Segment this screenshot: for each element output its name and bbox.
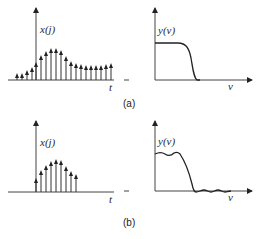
panel-a-freq-plot: y(v) v bbox=[124, 8, 252, 92]
stem-arrow-icon bbox=[39, 55, 43, 60]
stem-arrow-icon bbox=[79, 64, 83, 69]
stem-arrow-icon bbox=[54, 159, 58, 164]
stem-arrow-icon bbox=[49, 161, 53, 166]
panel-b-caption: (b) bbox=[123, 217, 135, 228]
stem-arrow-icon bbox=[59, 160, 63, 165]
stem-arrow-icon bbox=[64, 56, 68, 61]
stem-arrow-icon bbox=[30, 67, 34, 72]
panel-b-time-plot: x(j) t bbox=[8, 121, 114, 205]
panel-a-x-label: x(j) bbox=[39, 23, 56, 36]
stem-arrow-icon bbox=[99, 65, 103, 70]
stem-arrow-icon bbox=[15, 73, 19, 78]
stem-arrow-icon bbox=[49, 48, 53, 53]
stem-arrow-icon bbox=[64, 166, 68, 171]
panel-b-t-label: t bbox=[109, 193, 113, 205]
stem-arrow-icon bbox=[20, 73, 24, 78]
panel-a-t-label: t bbox=[109, 81, 113, 93]
stem-arrow-icon bbox=[34, 62, 38, 67]
panel-b-response-curve bbox=[155, 152, 231, 192]
stem-arrow-icon bbox=[84, 65, 88, 70]
stem-arrow-icon bbox=[104, 64, 108, 69]
panel-a-response-curve bbox=[155, 43, 200, 80]
stem-arrow-icon bbox=[34, 178, 38, 183]
stem-arrow-icon bbox=[109, 63, 113, 68]
stem-arrow-icon bbox=[25, 70, 29, 75]
figure-canvas: x(j) t y(v) v (a) x(j) t y(v) v (b) bbox=[0, 0, 262, 239]
stem-arrow-icon bbox=[74, 63, 78, 68]
panel-b-y-label: y(v) bbox=[157, 135, 175, 148]
panel-b-freq-plot: y(v) v bbox=[124, 121, 252, 203]
panel-b-v-label: v bbox=[228, 191, 233, 203]
stem-arrow-icon bbox=[44, 165, 48, 170]
stem-arrow-icon bbox=[94, 65, 98, 70]
panel-b-x-label: x(j) bbox=[39, 136, 56, 149]
stem-arrow-icon bbox=[74, 174, 78, 179]
stem-arrow-icon bbox=[59, 50, 63, 55]
stem-arrow-icon bbox=[54, 48, 58, 53]
panel-a-v-label: v bbox=[228, 80, 233, 92]
panel-a-caption: (a) bbox=[123, 98, 135, 109]
panel-a-time-plot: x(j) t bbox=[8, 8, 114, 93]
panel-a-stems bbox=[15, 48, 113, 80]
stem-arrow-icon bbox=[44, 51, 48, 56]
stem-arrow-icon bbox=[69, 171, 73, 176]
stem-arrow-icon bbox=[69, 61, 73, 66]
stem-arrow-icon bbox=[39, 170, 43, 175]
stem-arrow-icon bbox=[89, 65, 93, 70]
panel-b-stems bbox=[34, 159, 78, 192]
panel-a-y-label: y(v) bbox=[157, 24, 175, 37]
